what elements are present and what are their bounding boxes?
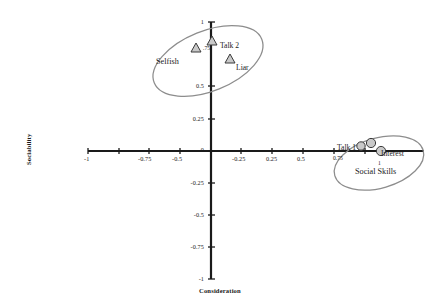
cluster-label-social-skills: Social Skills (355, 168, 396, 176)
marker-talk2[interactable] (207, 36, 217, 45)
value-label-075-lower: 0.75 (333, 156, 343, 162)
x-tick-label-025: 0.25 (266, 156, 277, 162)
value-label-075-upper: .75 (203, 46, 210, 52)
point-label-talk2: Talk 2 (220, 42, 239, 50)
point-label-selfish: Selfish (156, 58, 179, 66)
x-axis-title: Consideration (199, 288, 241, 295)
value-label-1-lower: 1 (378, 161, 381, 167)
marker-selfish[interactable] (191, 43, 201, 52)
x-tick-label-05: 0.5 (297, 156, 305, 162)
chart-canvas: -1 -0.75 -0.5 -0.25 0.25 0.5 1 0.5 0.25 … (0, 0, 439, 302)
y-tick-label-05: 0.5 (182, 83, 204, 89)
marker-talk1[interactable] (357, 142, 365, 150)
point-label-liar: Liar (236, 64, 249, 72)
x-tick-label--1: -1 (84, 156, 89, 162)
y-tick-label--1: -1 (182, 276, 204, 282)
y-tick-label-025: 0.25 (182, 116, 204, 122)
x-tick-label--075: -0.75 (138, 156, 151, 162)
point-label-talk1: Talk 1 (337, 144, 356, 152)
marker-liar[interactable] (225, 54, 235, 63)
y-tick-label--05: -0.5 (182, 212, 204, 218)
y-tick-label-0: 0 (182, 147, 204, 153)
y-tick-label-1: 1 (182, 19, 204, 25)
y-axis-title: Sociability (26, 134, 33, 165)
x-tick-label--025: -0.25 (232, 156, 245, 162)
marker-unlabeled[interactable] (366, 138, 375, 147)
x-tick-label--05: -0.5 (172, 156, 182, 162)
y-tick-label--075: -0.75 (182, 244, 204, 250)
y-tick-label--025: -0.25 (182, 180, 204, 186)
point-label-interest: Interest (381, 150, 404, 158)
